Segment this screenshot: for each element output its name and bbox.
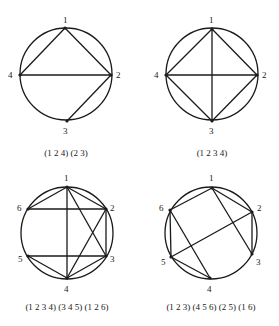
- node-6: [168, 208, 171, 211]
- node-label-6: 6: [159, 203, 164, 213]
- edge-1-2: [65, 28, 111, 75]
- edges: [28, 187, 106, 278]
- edge-1-3: [212, 188, 252, 254]
- figure-caption: (1 2 3 4) (3 4 5) (1 2 6): [25, 302, 108, 312]
- node-1: [63, 26, 66, 29]
- node-label-2: 2: [262, 70, 267, 80]
- edge-1-2: [212, 29, 257, 75]
- node-3: [250, 252, 253, 255]
- node-label-4: 4: [207, 284, 212, 294]
- node-2: [109, 73, 112, 76]
- figure-caption: (1 2 3 4): [197, 148, 228, 158]
- node-label-5: 5: [18, 254, 23, 264]
- node-4: [208, 276, 211, 279]
- node-label-3: 3: [63, 126, 68, 136]
- node-5: [169, 255, 172, 258]
- node-label-1: 1: [63, 15, 68, 25]
- node-4: [18, 73, 21, 76]
- node-label-2: 2: [116, 70, 121, 80]
- node-label-3: 3: [209, 126, 214, 136]
- nodes: 123456: [17, 173, 115, 294]
- node-label-2: 2: [110, 203, 115, 213]
- figure-2: 1234 (1 2 3 4): [154, 15, 267, 158]
- node-label-4: 4: [64, 284, 69, 294]
- nodes: 123456: [159, 173, 262, 294]
- edge-4-1: [166, 29, 212, 75]
- node-1: [65, 185, 68, 188]
- edge-5-6: [170, 210, 171, 257]
- node-label-3: 3: [256, 257, 261, 267]
- node-4: [164, 73, 167, 76]
- node-4: [65, 276, 68, 279]
- node-2: [104, 207, 107, 210]
- node-label-4: 4: [154, 70, 159, 80]
- node-3: [65, 119, 68, 122]
- node-label-1: 1: [209, 173, 214, 183]
- node-1: [210, 27, 213, 30]
- figure-caption: (1 2 3) (4 5 6) (2 5) (1 6): [166, 302, 255, 312]
- node-label-3: 3: [110, 254, 115, 264]
- node-3: [104, 254, 107, 257]
- node-label-6: 6: [17, 203, 22, 213]
- node-label-4: 4: [8, 70, 13, 80]
- figure-4: 123456 (1 2 3) (4 5 6) (2 5) (1 6): [159, 173, 262, 312]
- figure-caption: (1 2 4) (2 3): [44, 148, 88, 158]
- node-label-1: 1: [64, 173, 69, 183]
- node-3: [210, 119, 213, 122]
- node-2: [255, 73, 258, 76]
- node-label-5: 5: [161, 257, 166, 267]
- edge-1-6: [28, 187, 67, 209]
- figure-3: 123456 (1 2 3 4) (3 4 5) (1 2 6): [17, 173, 115, 312]
- node-2: [250, 210, 253, 213]
- circle: [20, 28, 112, 120]
- node-6: [26, 207, 29, 210]
- figure-1: 1234 (1 2 4) (2 3): [8, 15, 121, 158]
- node-label-2: 2: [257, 203, 262, 213]
- node-1: [210, 186, 213, 189]
- graph-diagrams: 1234 (1 2 4) (2 3) 1234 (1 2 3 4) 123456…: [0, 0, 279, 326]
- node-5: [26, 254, 29, 257]
- circle: [165, 187, 257, 279]
- edges: [170, 188, 252, 278]
- node-label-1: 1: [209, 15, 214, 25]
